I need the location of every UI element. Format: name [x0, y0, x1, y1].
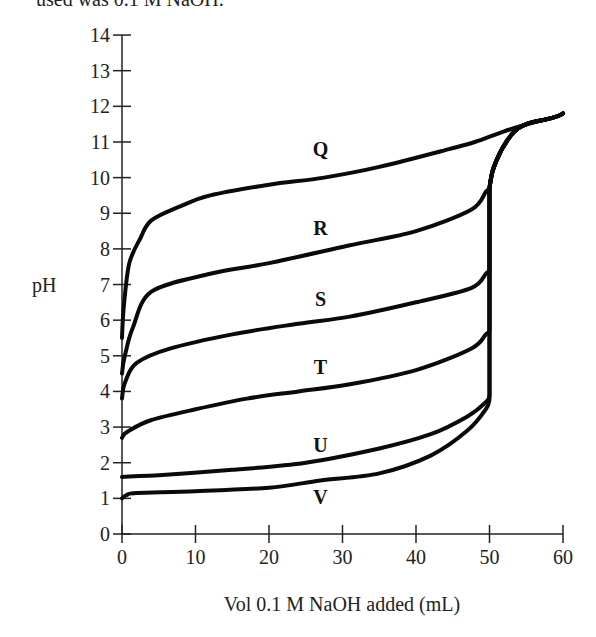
titration-chart: used was 0.1 M NaOH. 0123456789101112131… — [0, 0, 596, 637]
curve-u — [122, 113, 563, 477]
y-tick-label: 0 — [100, 523, 110, 545]
x-tick-label: 40 — [406, 546, 426, 568]
curve-label-u: U — [313, 434, 327, 456]
y-tick-label: 8 — [100, 238, 110, 260]
x-axis-title: Vol 0.1 M NaOH added (mL) — [224, 593, 460, 616]
x-tick-label: 0 — [117, 546, 127, 568]
y-tick-label: 13 — [90, 60, 110, 82]
curve-q — [122, 113, 563, 338]
curve-label-r: R — [313, 217, 328, 239]
y-axis-title: pH — [32, 274, 56, 297]
y-tick-label: 5 — [100, 345, 110, 367]
y-tick-label: 11 — [91, 131, 110, 153]
y-tick-label: 7 — [100, 274, 110, 296]
y-tick-label: 10 — [90, 167, 110, 189]
curve-label-q: Q — [313, 138, 329, 160]
y-tick-label: 14 — [90, 24, 110, 46]
curve-label-v: V — [313, 486, 328, 508]
y-tick-label: 6 — [100, 309, 110, 331]
curve-r — [122, 113, 563, 373]
x-tick-label: 20 — [259, 546, 279, 568]
x-tick-label: 30 — [333, 546, 353, 568]
axes: 012345678910111213140102030405060 — [90, 24, 573, 568]
x-tick-label: 60 — [553, 546, 573, 568]
y-tick-label: 12 — [90, 95, 110, 117]
curve-v — [122, 113, 563, 498]
y-tick-label: 9 — [100, 202, 110, 224]
curves — [122, 113, 563, 498]
curve-label-t: T — [314, 356, 328, 378]
y-tick-label: 4 — [100, 380, 110, 402]
x-tick-label: 50 — [480, 546, 500, 568]
y-tick-label: 1 — [100, 487, 110, 509]
caption-fragment: used was 0.1 M NaOH. — [36, 0, 224, 11]
y-tick-label: 2 — [100, 452, 110, 474]
plot-area: 012345678910111213140102030405060 QRSTUV… — [0, 0, 596, 637]
curve-label-s: S — [315, 288, 326, 310]
y-tick-label: 3 — [100, 416, 110, 438]
x-tick-label: 10 — [186, 546, 206, 568]
